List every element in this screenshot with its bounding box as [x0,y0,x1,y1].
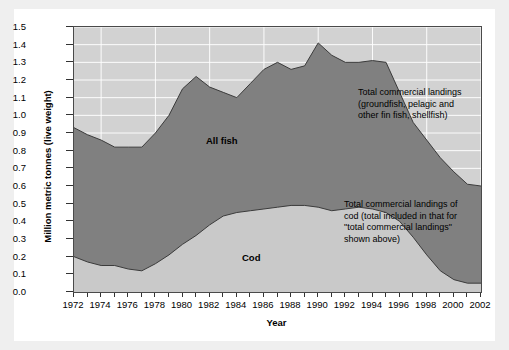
annotation-line: Total commercial landings [358,87,462,99]
y-tick-label: 0.7 [0,162,26,173]
y-tick-mark [66,238,73,239]
y-tick-mark [66,61,73,62]
annotation-line: other fin fish, shellfish) [358,110,462,122]
y-tick-label: 1.4 [0,38,26,49]
area-series-group [74,27,481,292]
y-tick-label: 1.5 [0,21,26,32]
y-tick-mark [66,167,73,168]
y-tick-label: 0.0 [0,286,26,297]
annotation-line: shown above) [344,234,458,246]
y-tick-label: 0.9 [0,127,26,138]
y-tick-label: 0.6 [0,180,26,191]
chart-figure: Million metric tonnes (live weight) 0.00… [14,9,495,341]
y-tick-label: 0.1 [0,268,26,279]
y-tick-mark [66,256,73,257]
y-tick-label: 1.0 [0,109,26,120]
y-tick-label: 0.4 [0,215,26,226]
y-tick-mark [66,44,73,45]
y-tick-label: 1.2 [0,74,26,85]
y-tick-mark [66,26,73,27]
annotation-line: (groundfish, pelagic and [358,99,462,111]
y-tick-mark [66,291,73,292]
annotation-line: Total commercial landings of [344,199,458,211]
plot-area [73,26,482,293]
y-tick-mark [66,97,73,98]
y-tick-mark [66,220,73,221]
y-axis-title: Million metric tonnes (live weight) [42,62,53,272]
y-tick-mark [66,185,73,186]
y-tick-label: 0.3 [0,233,26,244]
y-tick-label: 0.2 [0,250,26,261]
y-tick-mark [66,203,73,204]
y-tick-label: 1.1 [0,91,26,102]
y-tick-label: 1.3 [0,56,26,67]
y-tick-mark [66,114,73,115]
annotation-total-landings: Total commercial landings (groundfish, p… [358,87,462,122]
annotation-cod-landings: Total commercial landings of cod (total … [344,199,458,245]
y-tick-label: 0.5 [0,197,26,208]
series-label-all-fish: All fish [206,135,238,146]
series-label-cod: Cod [242,252,260,263]
y-tick-label: 0.8 [0,144,26,155]
y-tick-mark [66,132,73,133]
annotation-line: "total commercial landings" [344,222,458,234]
y-tick-mark [66,273,73,274]
x-axis-title: Year [73,317,480,328]
x-tick-label: 2002 [457,299,503,310]
y-tick-mark [66,79,73,80]
annotation-line: cod (total included in that for [344,211,458,223]
y-tick-mark [66,150,73,151]
